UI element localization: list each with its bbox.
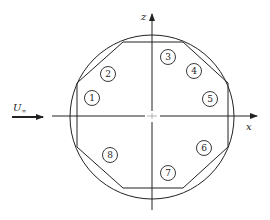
probe-6: 6 [197,141,212,156]
probe-label: 4 [191,66,197,76]
probe-label: 7 [165,168,171,178]
probe-2: 2 [101,67,116,82]
z-axis-label: z [140,11,147,22]
freestream-label: U∞ [13,102,26,114]
probe-label: 1 [89,93,95,103]
probe-label: 3 [165,52,171,62]
x-axis-label: x [246,121,252,132]
probe-5: 5 [203,92,218,107]
probe-label: 2 [105,69,111,79]
probe-3: 3 [161,50,176,65]
probe-label: 8 [107,150,113,160]
probe-4: 4 [187,64,202,79]
probe-7: 7 [161,166,176,181]
freestream-label-sub: ∞ [21,107,26,114]
probe-8: 8 [103,148,118,163]
probe-label: 5 [207,94,213,104]
probe-label: 6 [201,143,207,153]
probe-1: 1 [85,91,100,106]
diagram-canvas: z x U∞ 1 2 3 4 5 6 7 8 [0,0,270,220]
